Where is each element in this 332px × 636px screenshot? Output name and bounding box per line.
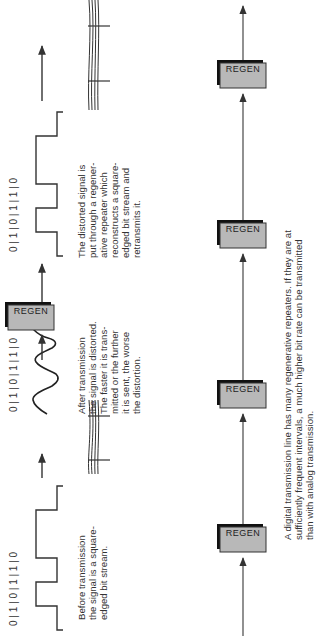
bit: 0: [8, 406, 19, 412]
bit: 0: [8, 593, 19, 599]
bit-labels-input: 0 | 1 | 0 | 1 | 1 | 0: [8, 552, 19, 626]
caption-regenerated: The distorted signal is put through a re…: [76, 118, 142, 258]
caption-transmission-line: A digital transmission line has many reg…: [282, 140, 315, 540]
bit: 1: [8, 192, 19, 198]
regen-label: REGEN: [14, 306, 49, 316]
caption-before-transmission: Before transmission the signal is a squa…: [76, 480, 109, 620]
bit: 0: [8, 620, 19, 626]
regen-repeater-2: REGEN: [217, 380, 266, 408]
caption-after-transmission: After transmission the signal is distort…: [76, 284, 142, 414]
regen-repeater-top: REGEN: [5, 302, 54, 330]
regen-label: REGEN: [226, 384, 261, 394]
regen-label: REGEN: [226, 224, 261, 234]
bit: 1: [8, 365, 19, 371]
bit: 1: [8, 566, 19, 572]
regen-repeater-4: REGEN: [217, 60, 266, 88]
square-wave-input: [36, 486, 63, 630]
bit: 1: [8, 579, 19, 585]
bit-labels-regenerated: 0 | 1 | 0 | 1 | 1 | 0: [8, 178, 19, 252]
bit: 1: [8, 205, 19, 211]
regen-label: REGEN: [226, 64, 261, 74]
regenerative-repeater-diagram: REGEN REGEN: [0, 0, 332, 636]
bit-labels-distorted: 0 | 1 | 0 | 1 | 1 | 0: [8, 338, 19, 412]
square-wave-regenerated: [36, 112, 63, 256]
bit: 1: [8, 352, 19, 358]
bit: 1: [8, 233, 19, 239]
bit: 0: [8, 246, 19, 252]
regen-repeater-1: REGEN: [217, 524, 266, 552]
bit: 0: [8, 379, 19, 385]
bit: 1: [8, 393, 19, 399]
wire-bundle-icon: [88, 0, 110, 110]
bit: 0: [8, 338, 19, 344]
regen-repeater-3: REGEN: [217, 220, 266, 248]
bit: 0: [8, 178, 19, 184]
bit: 1: [8, 607, 19, 613]
bit: 0: [8, 552, 19, 558]
bit: 0: [8, 219, 19, 225]
regen-label: REGEN: [226, 528, 261, 538]
